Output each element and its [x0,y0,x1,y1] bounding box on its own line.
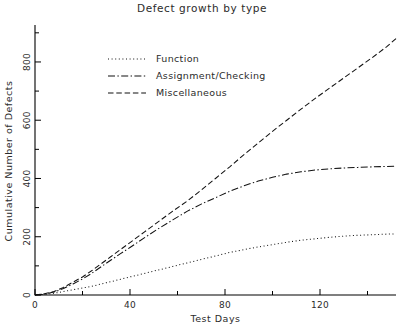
x-tick-label: 120 [311,300,329,310]
x-tick-label: 80 [219,300,231,310]
y-axis-title: Cumulative Number of Defects [3,81,14,242]
x-tick-label: 0 [32,300,38,310]
y-tick-label: 600 [22,111,32,129]
legend-label-1: Assignment/Checking [156,70,266,81]
legend-label-0: Function [156,53,199,64]
x-tick-label: 40 [124,300,136,310]
chart-figure: Defect growth by type 040801200200400600… [0,0,404,328]
plot-canvas: 040801200200400600800 FunctionAssignment… [0,0,404,328]
y-tick-label: 200 [22,228,32,246]
y-tick-label: 0 [22,292,32,298]
axes-group: 040801200200400600800 [22,25,396,310]
y-tick-label: 400 [22,169,32,187]
legend-label-2: Miscellaneous [156,87,227,98]
axis-lines [35,25,396,295]
y-tick-label: 800 [22,53,32,71]
series-line-assignment-checking [35,166,396,295]
x-axis-title: Test Days [190,313,241,324]
series-line-function [35,234,396,295]
legend-group: FunctionAssignment/CheckingMiscellaneous [108,53,266,98]
